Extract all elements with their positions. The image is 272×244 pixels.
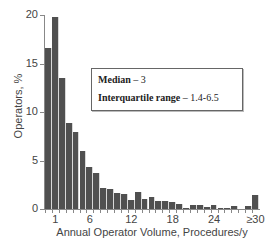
y-tick [40, 161, 44, 162]
y-tick [40, 112, 44, 113]
x-tick-label: 18 [161, 213, 185, 225]
histogram-bar [100, 188, 107, 209]
histogram-bar [45, 48, 52, 209]
histogram-bar [149, 197, 156, 209]
histogram-bar [183, 208, 190, 209]
iqr-value: – 1.4-6.5 [180, 92, 218, 103]
histogram-bar [231, 206, 238, 209]
histogram-bar [86, 167, 93, 209]
histogram-bar [197, 205, 204, 209]
y-tick [40, 64, 44, 65]
y-tick-label: 20 [12, 8, 38, 20]
y-tick [40, 209, 44, 210]
histogram-bar [107, 189, 114, 209]
x-axis-title: Annual Operator Volume, Procedures/y [45, 226, 259, 238]
histogram-bar [73, 132, 80, 209]
x-tick-label: 1 [43, 213, 67, 225]
histogram-bar [190, 205, 197, 209]
histogram-bar [93, 173, 100, 209]
histogram-bar [128, 200, 135, 209]
iqr-label: Interquartile range [98, 92, 180, 103]
x-tick-label: 6 [78, 213, 102, 225]
x-axis-line [44, 209, 260, 210]
x-tick [238, 210, 239, 213]
histogram-bar [80, 151, 87, 209]
x-tick [149, 210, 150, 213]
x-tick-label: 12 [119, 213, 143, 225]
histogram-bar [245, 206, 252, 209]
x-tick [231, 210, 232, 213]
histogram-bar [121, 194, 128, 209]
histogram-bar [211, 205, 218, 209]
histogram-bar [204, 207, 211, 209]
x-tick [107, 210, 108, 213]
histogram-bar [224, 208, 231, 209]
histogram-bar [142, 199, 149, 209]
histogram-bar [155, 201, 162, 209]
histogram-bar [135, 192, 142, 209]
median-row: Median – 3 [98, 74, 146, 85]
x-tick-label: 24 [202, 213, 226, 225]
summary-box: Median – 3 Interquartile range – 1.4-6.5 [91, 68, 243, 111]
histogram-bar [169, 202, 176, 209]
histogram-bar [176, 204, 183, 209]
x-tick [197, 210, 198, 213]
y-tick-label: 0 [12, 202, 38, 214]
histogram-bar [66, 123, 73, 209]
x-tick [114, 210, 115, 213]
y-tick-label: 10 [12, 105, 38, 117]
y-tick-label: 5 [12, 154, 38, 166]
x-tick [155, 210, 156, 213]
x-tick [73, 210, 74, 213]
histogram-chart: Operators, % 05101520 16121824≥30 Annual… [0, 0, 272, 244]
median-label: Median [98, 74, 131, 85]
median-value: – 3 [131, 74, 146, 85]
histogram-bar [252, 195, 259, 209]
iqr-row: Interquartile range – 1.4-6.5 [98, 92, 219, 103]
x-tick [190, 210, 191, 213]
y-tick-label: 15 [12, 57, 38, 69]
histogram-bar [52, 17, 59, 209]
histogram-bar [162, 201, 169, 209]
histogram-bar [114, 193, 121, 209]
y-tick [40, 15, 44, 16]
histogram-bar [218, 208, 225, 209]
histogram-bar [59, 78, 66, 209]
x-tick-label: ≥30 [243, 213, 267, 225]
